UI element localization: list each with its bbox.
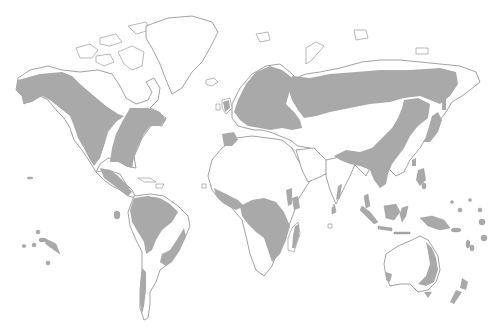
island-polynesia-5 <box>46 261 50 265</box>
island-fiji <box>481 235 487 241</box>
landmass-new-siberian-islands <box>416 48 428 54</box>
island-fiji-2 <box>479 219 485 225</box>
landmass-severnaya-zemlya <box>354 30 368 40</box>
island-samoa <box>478 208 482 212</box>
island-new-caledonia <box>470 245 474 251</box>
range-sakhalin <box>442 96 446 110</box>
island-polynesia-4 <box>22 245 26 248</box>
island-micronesia-3 <box>469 199 472 202</box>
world-map <box>0 0 502 332</box>
range-galapagos <box>114 211 120 219</box>
landmass-ireland <box>216 104 220 110</box>
island-micronesia-4 <box>451 201 454 204</box>
island-polynesia-2 <box>32 243 36 247</box>
island-lesser-sundas <box>394 232 410 234</box>
island-polynesia-6 <box>36 230 40 234</box>
landmass-mauritius <box>328 224 332 228</box>
island-vanuatu <box>466 240 470 248</box>
landmass-cape-verde <box>202 184 206 188</box>
island-micronesia-2 <box>458 208 462 212</box>
island-solomon <box>451 228 461 232</box>
island-hawaii <box>27 177 33 179</box>
island-micronesia-1 <box>422 183 426 189</box>
